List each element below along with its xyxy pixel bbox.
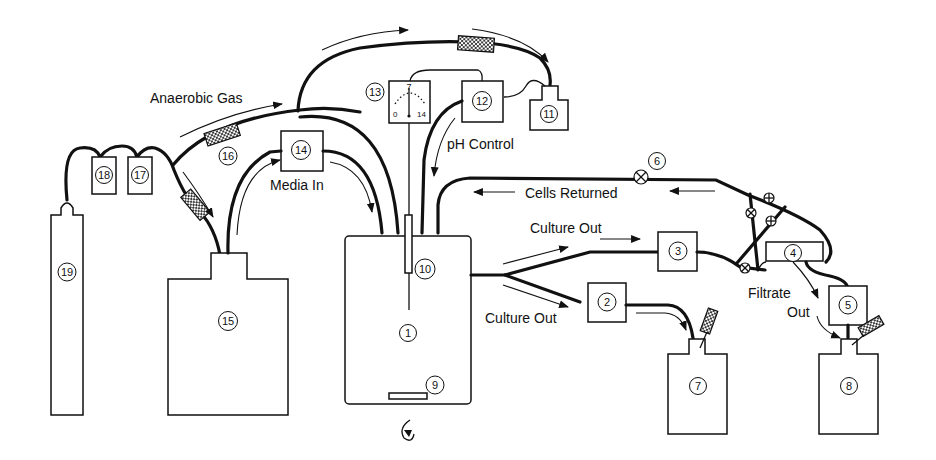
label-19: 19 [61, 266, 73, 278]
bioreactor-vessel-1: 10 1 9 [345, 215, 471, 440]
svg-text:13: 13 [369, 86, 381, 98]
gas-cylinder-19: 19 [51, 203, 83, 415]
svg-text:12: 12 [476, 95, 488, 107]
svg-text:17: 17 [134, 169, 146, 181]
ph-controller-12: 12 [462, 81, 503, 122]
gas-line-main [173, 108, 360, 165]
recycle-pump-3: 3 [658, 232, 697, 271]
svg-text:14: 14 [417, 110, 426, 119]
filtrate-pump-5: 5 [829, 286, 867, 325]
cells-returned-label: Cells Returned [525, 185, 618, 201]
svg-text:2: 2 [604, 296, 610, 308]
svg-text:6: 6 [654, 155, 660, 167]
culture-out-top-label: Culture Out [530, 220, 602, 236]
culture-out-bottom-label: Culture Out [485, 310, 557, 326]
svg-text:15: 15 [222, 315, 234, 327]
filtrate-out-label: Out [787, 304, 810, 320]
svg-text:4: 4 [790, 247, 796, 259]
svg-text:7: 7 [695, 380, 701, 392]
svg-text:1: 1 [405, 327, 411, 339]
svg-text:8: 8 [846, 380, 852, 392]
gas-filter-16 [204, 123, 240, 146]
diagram-canvas: 19 18 17 16 Anaerobic Gas 11 12 pH Contr… [0, 0, 936, 460]
stir-bar-9-label: 9 [432, 379, 438, 391]
ph-meter-13: 7 0 14 13 [366, 81, 430, 123]
media-line-in [228, 151, 281, 253]
media-reservoir-15: 15 [168, 253, 288, 415]
vessel-11: 11 [530, 86, 568, 130]
svg-text:14: 14 [295, 144, 307, 156]
media-in-label: Media In [270, 177, 324, 193]
label-16: 16 [222, 150, 234, 162]
filtrate-vessel-8: 8 [819, 316, 884, 434]
scrubber-17: 17 [128, 157, 152, 194]
svg-text:7: 7 [406, 82, 411, 92]
cell-filter-4: 4 [766, 242, 823, 262]
collection-vessel-7: 7 [668, 308, 727, 434]
gas-filter-top [458, 36, 495, 52]
probe-10-label: 10 [419, 263, 431, 275]
filtrate-label: Filtrate [748, 285, 791, 301]
media-pump-14: 14 [281, 131, 323, 171]
scrubber-18: 18 [92, 157, 116, 194]
ph-control-label: pH Control [447, 136, 514, 152]
svg-text:5: 5 [845, 299, 851, 311]
bioreactor-diagram: 19 18 17 16 Anaerobic Gas 11 12 pH Contr… [0, 0, 936, 460]
anaerobic-gas-label: Anaerobic Gas [150, 90, 243, 106]
culture-pump-2: 2 [588, 283, 626, 322]
svg-text:3: 3 [675, 245, 681, 257]
svg-text:18: 18 [98, 169, 110, 181]
svg-text:11: 11 [543, 108, 554, 120]
svg-text:0: 0 [393, 110, 398, 119]
